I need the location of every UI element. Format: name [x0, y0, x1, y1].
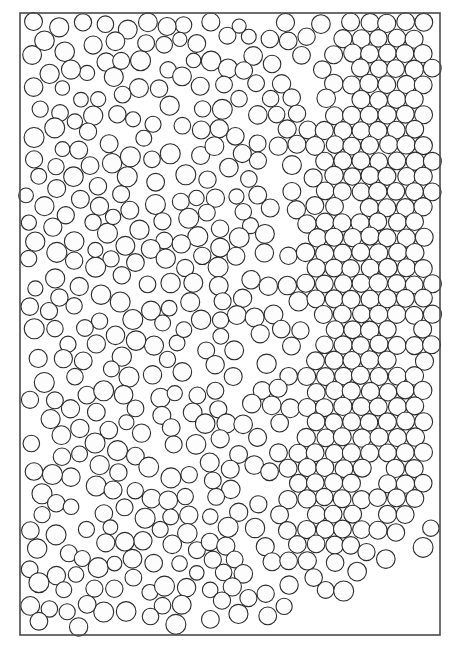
- disk: [213, 328, 229, 344]
- disk: [278, 276, 296, 294]
- disk: [269, 137, 287, 155]
- disk: [86, 580, 103, 597]
- disk: [227, 127, 245, 145]
- disk: [241, 171, 258, 188]
- disk: [307, 259, 325, 277]
- disk: [387, 524, 405, 542]
- disk: [107, 556, 122, 571]
- disk: [269, 379, 287, 397]
- disk: [245, 518, 264, 537]
- disk: [276, 13, 294, 31]
- disk: [163, 509, 179, 525]
- disk: [139, 276, 156, 293]
- disk: [216, 76, 233, 93]
- disk: [126, 112, 141, 127]
- disk: [204, 472, 221, 489]
- disk: [353, 305, 371, 323]
- disk: [68, 567, 84, 583]
- disk: [242, 394, 261, 413]
- disk: [326, 198, 344, 216]
- disk: [130, 79, 149, 98]
- disk: [25, 13, 43, 31]
- disk: [74, 14, 91, 31]
- disk: [396, 381, 414, 399]
- disk: [87, 403, 105, 421]
- disk: [201, 533, 218, 550]
- disk: [379, 44, 397, 62]
- disk: [358, 543, 375, 560]
- disk: [65, 252, 82, 269]
- disk: [282, 156, 301, 175]
- disk: [109, 106, 126, 123]
- disk: [127, 483, 143, 499]
- disk: [397, 13, 415, 31]
- disk: [120, 147, 140, 167]
- disk: [369, 521, 387, 539]
- disk: [257, 585, 274, 602]
- disk: [78, 386, 96, 404]
- disk: [276, 598, 292, 614]
- disk: [165, 436, 182, 453]
- disk: [163, 535, 182, 554]
- disk: [370, 428, 388, 446]
- disk: [397, 136, 415, 154]
- disk: [25, 463, 43, 481]
- disk: [423, 520, 439, 536]
- disk: [208, 488, 225, 505]
- disk: [342, 13, 360, 31]
- disk: [91, 285, 110, 304]
- disk: [415, 13, 433, 31]
- disk: [333, 428, 351, 446]
- disk: [90, 456, 109, 475]
- disk: [97, 534, 115, 552]
- disk: [396, 289, 414, 307]
- disk: [396, 444, 414, 462]
- disk: [181, 467, 198, 484]
- disk: [90, 197, 108, 215]
- disk: [72, 446, 88, 462]
- disk: [234, 415, 253, 434]
- disk: [280, 247, 297, 264]
- disk: [104, 481, 122, 499]
- disk: [208, 257, 228, 277]
- disk: [369, 182, 387, 200]
- disk: [64, 232, 84, 252]
- disk: [172, 595, 191, 614]
- disk: [199, 171, 216, 188]
- disk: [213, 592, 230, 609]
- disk: [91, 92, 106, 107]
- disk: [317, 429, 335, 447]
- disk: [34, 373, 54, 393]
- disk: [110, 292, 130, 312]
- disk: [352, 243, 370, 261]
- disk: [378, 505, 396, 523]
- disk: [326, 136, 344, 154]
- disk: [159, 351, 175, 367]
- disk: [283, 89, 301, 107]
- disk: [135, 508, 155, 528]
- disk: [55, 42, 75, 62]
- disk: [415, 289, 433, 307]
- disk: [26, 151, 43, 168]
- disk: [361, 227, 379, 245]
- disk: [44, 218, 62, 236]
- disk: [248, 75, 265, 92]
- disk: [205, 137, 224, 156]
- disk: [263, 553, 281, 571]
- disk: [132, 424, 150, 442]
- disk: [113, 186, 130, 203]
- disk: [29, 573, 49, 593]
- disk: [278, 120, 296, 138]
- disk: [21, 215, 36, 230]
- disk: [142, 608, 159, 625]
- disk: [78, 521, 94, 537]
- disk: [24, 78, 43, 97]
- disk: [229, 228, 249, 248]
- disk: [71, 190, 89, 208]
- disk: [361, 13, 379, 31]
- disk: [52, 426, 71, 445]
- disk: [261, 463, 279, 481]
- disk: [259, 607, 277, 625]
- disk: [388, 489, 406, 507]
- disk: [307, 352, 325, 370]
